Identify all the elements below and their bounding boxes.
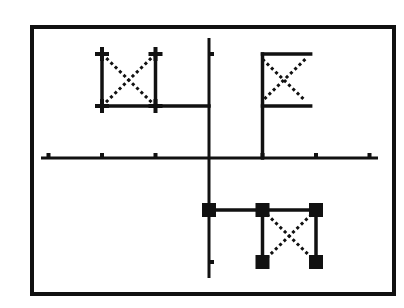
x-tick <box>154 153 158 158</box>
square-marker <box>309 255 323 269</box>
plus-marker <box>100 47 104 61</box>
screen-frame <box>32 27 394 294</box>
x-tick <box>100 153 104 158</box>
flag-quadrant-2 <box>95 47 209 113</box>
flag-diagonal <box>263 210 317 262</box>
square-marker <box>309 203 323 217</box>
y-tick <box>209 260 214 264</box>
plus-marker <box>154 99 158 113</box>
square-marker <box>256 203 270 217</box>
plus-marker <box>100 99 104 113</box>
coordinate-axes <box>41 38 378 278</box>
x-tick <box>314 153 318 158</box>
x-tick <box>47 153 51 158</box>
square-marker <box>256 255 270 269</box>
x-tick <box>368 153 372 158</box>
square-marker <box>202 203 216 217</box>
calculator-graph-screen <box>0 0 404 308</box>
y-tick <box>209 52 214 56</box>
flag-quadrant-4 <box>202 203 323 269</box>
plus-marker <box>154 47 158 61</box>
flag-quadrant-1 <box>263 54 311 158</box>
